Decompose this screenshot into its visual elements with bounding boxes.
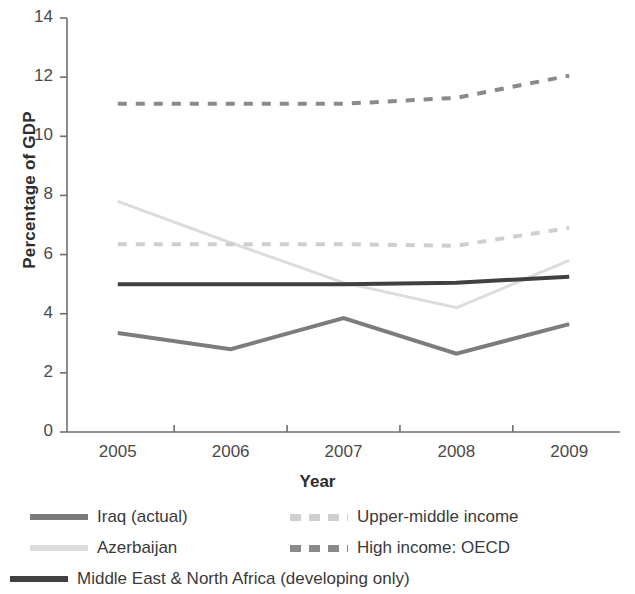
legend-swatch-icon xyxy=(30,545,88,551)
chart-legend: Iraq (actual)Upper-middle incomeAzerbaij… xyxy=(0,505,635,594)
axis-lines xyxy=(60,18,620,432)
legend-item[interactable]: High income: OECD xyxy=(290,538,510,558)
legend-swatch-icon xyxy=(290,514,348,521)
series-line xyxy=(118,228,569,246)
series-line xyxy=(118,201,569,307)
series-lines xyxy=(118,76,569,354)
legend-label: Upper-middle income xyxy=(357,507,519,527)
legend-swatch-icon xyxy=(30,514,88,520)
legend-swatch-icon xyxy=(10,576,68,582)
series-line xyxy=(118,277,569,284)
series-line xyxy=(118,318,569,353)
legend-item[interactable]: Upper-middle income xyxy=(290,507,519,527)
series-line xyxy=(118,76,569,104)
legend-swatch-icon xyxy=(290,545,348,552)
legend-label: High income: OECD xyxy=(357,538,510,558)
legend-item[interactable]: Azerbaijan xyxy=(30,538,177,558)
chart-figure: Percentage of GDP Year 02468101214 20052… xyxy=(0,0,635,594)
legend-label: Azerbaijan xyxy=(97,538,177,558)
legend-item[interactable]: Middle East & North Africa (developing o… xyxy=(10,569,410,589)
legend-item[interactable]: Iraq (actual) xyxy=(30,507,188,527)
legend-label: Middle East & North Africa (developing o… xyxy=(77,569,410,589)
legend-label: Iraq (actual) xyxy=(97,507,188,527)
